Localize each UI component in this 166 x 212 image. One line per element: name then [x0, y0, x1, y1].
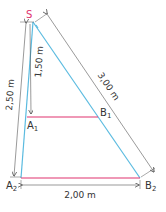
label-b2-sub: 2	[152, 185, 156, 193]
ray-s-a2	[21, 22, 33, 178]
dim-ext-b2-diag	[141, 168, 155, 177]
ray-s-b2	[33, 22, 140, 178]
dim-line-sb2	[47, 14, 154, 172]
dim-line-sa2	[14, 23, 26, 176]
label-a2: A2	[6, 180, 17, 193]
label-a1: A1	[27, 120, 38, 133]
label-b1-sub: 1	[107, 112, 111, 120]
dim-label-a2b2: 2,00 m	[64, 190, 96, 200]
dim-label-sa2: 2,50 m	[4, 79, 16, 111]
dim-label-sa1: 1,50 m	[33, 46, 45, 78]
label-b1: B1	[100, 107, 111, 120]
label-a1-sub: 1	[34, 125, 38, 133]
intercept-theorem-diagram: 2,50 m 1,50 m 3,00 m 2,00 m S A1 B1 A2 B…	[0, 0, 166, 212]
dim-line-sa1	[30, 24, 31, 114]
label-b2: B2	[145, 180, 156, 193]
dim-ext-s-diag	[35, 13, 48, 22]
dim-label-sb2: 3,00 m	[95, 70, 121, 102]
label-s: S	[26, 9, 32, 20]
label-a2-sub: 2	[13, 185, 17, 193]
